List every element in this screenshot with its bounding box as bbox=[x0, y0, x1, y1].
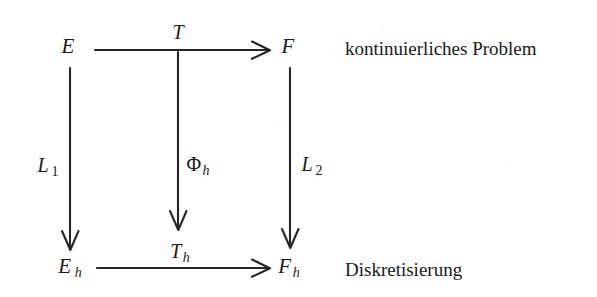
caption-continuous-problem-text: kontinuierliches Problem bbox=[345, 38, 537, 59]
node-Fh-label: F bbox=[278, 254, 291, 278]
arrow-label-Phih-subscript: h bbox=[201, 163, 210, 178]
arrow-label-Phih-text: Φ bbox=[186, 153, 201, 175]
node-Eh-subscript: h bbox=[71, 265, 82, 280]
commutative-diagram-figure: E F Eh Fh T Th L1 Φh L2 kontinuierliches… bbox=[0, 0, 597, 297]
node-F-label: F bbox=[282, 34, 295, 58]
arrow-label-L1: L1 bbox=[37, 155, 58, 179]
arrow-label-L1-subscript: 1 bbox=[49, 164, 59, 179]
arrow-T bbox=[95, 42, 270, 59]
arrow-Phih bbox=[170, 52, 187, 230]
arrow-L2 bbox=[282, 68, 299, 248]
arrow-label-L2: L2 bbox=[301, 154, 322, 178]
node-Eh-label: E bbox=[58, 254, 71, 278]
arrow-label-L1-text: L bbox=[37, 154, 48, 176]
arrow-label-T-text: T bbox=[172, 21, 183, 43]
node-E: E bbox=[62, 36, 75, 57]
arrow-label-T: T bbox=[172, 22, 183, 42]
node-E-label: E bbox=[62, 34, 75, 58]
caption-discretisation-text: Diskretisierung bbox=[345, 259, 462, 280]
node-Fh-subscript: h bbox=[291, 265, 300, 280]
arrow-label-Phih: Φh bbox=[186, 154, 209, 178]
node-F: F bbox=[282, 36, 295, 57]
node-Fh: Fh bbox=[278, 256, 299, 280]
caption-discretisation: Diskretisierung bbox=[345, 260, 462, 279]
arrow-label-Th: Th bbox=[170, 241, 190, 265]
arrow-label-Th-text: T bbox=[170, 240, 181, 262]
arrow-label-Th-subscript: h bbox=[181, 250, 190, 265]
arrow-L1 bbox=[62, 68, 79, 250]
node-Eh: Eh bbox=[58, 256, 81, 280]
caption-continuous-problem: kontinuierliches Problem bbox=[345, 39, 537, 58]
arrow-label-L2-text: L bbox=[301, 153, 312, 175]
arrow-label-L2-subscript: 2 bbox=[313, 163, 323, 178]
